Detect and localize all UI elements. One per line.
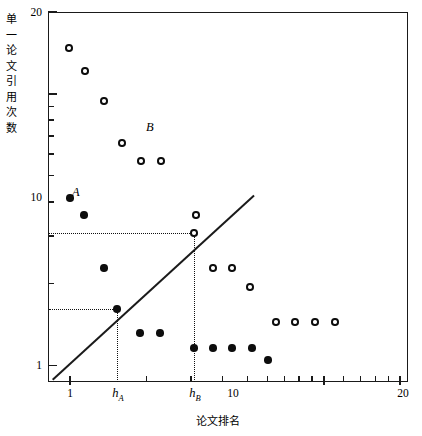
y-axis-title-char: 一 (6, 28, 17, 44)
data-point-series-b-5 (157, 157, 165, 165)
data-point-series-b-3 (118, 139, 126, 147)
data-point-series-a-3 (113, 305, 121, 313)
x-tick-4 (222, 376, 223, 383)
data-point-series-b-11 (291, 318, 299, 326)
x-tick-label-20: 20 (397, 387, 409, 399)
data-point-series-b-8 (228, 264, 236, 272)
data-point-series-b-10 (272, 318, 280, 326)
y-tick-label-20: 20 (31, 6, 43, 18)
data-point-series-a-7 (209, 344, 217, 352)
x-tick-14 (360, 376, 361, 383)
data-point-series-b-13 (331, 318, 339, 326)
y-axis-title-char: 单 (6, 12, 17, 28)
x-tick-7 (284, 376, 285, 383)
data-point-series-b-7 (209, 264, 217, 272)
y-tick-8 (48, 119, 54, 120)
y-tick-label-1: 1 (36, 359, 42, 371)
x-tick-3 (190, 376, 191, 383)
data-point-series-b-2 (100, 97, 108, 105)
x-tick-5 (247, 376, 248, 383)
x-tick-12 (343, 376, 344, 383)
x-tick-2 (146, 376, 147, 383)
x-axis-title: 论文排名 (196, 412, 240, 428)
data-point-series-a-8 (228, 344, 236, 352)
x-tick-8 (298, 376, 299, 383)
annotation-label-a: A (72, 185, 80, 200)
data-point-series-b-12 (311, 318, 319, 326)
annotation-label-b: B (146, 120, 154, 135)
data-point-series-b-4 (137, 157, 145, 165)
y-axis-title-char: 数 (6, 121, 17, 137)
h-a-label-sub: A (119, 393, 124, 403)
plot-frame (48, 12, 408, 382)
h-a-axis-label: hA (112, 386, 123, 403)
y-tick-1 (48, 365, 57, 367)
y-tick-2 (48, 283, 54, 284)
y-axis-title-char: 次 (6, 105, 17, 121)
x-tick-1 (69, 376, 71, 385)
x-tick-10 (323, 376, 325, 385)
data-point-series-b-9 (246, 283, 254, 291)
y-tick-6 (48, 153, 54, 154)
data-point-series-a-6 (190, 344, 198, 352)
data-point-series-b-0 (65, 44, 73, 52)
h-b-axis-label: hB (189, 386, 200, 403)
x-tick-16 (375, 376, 376, 383)
guide-vertical-hb (194, 233, 195, 382)
y-axis-title-char: 文 (6, 59, 17, 75)
chart-figure: 单一论文引用次数 论文排名 2010111020 AB hAhB (0, 0, 422, 436)
y-axis-title-char: 用 (6, 90, 17, 106)
h-b-label-sub: B (196, 393, 201, 403)
y-tick-9 (48, 106, 54, 107)
guide-horizontal-hb (49, 233, 194, 234)
guide-horizontal-ha (49, 309, 117, 310)
data-point-series-a-10 (264, 356, 272, 364)
data-point-series-a-5 (156, 329, 164, 337)
x-tick-20 (399, 376, 401, 385)
data-point-series-a-2 (100, 264, 108, 272)
x-tick-label-10: 10 (227, 387, 239, 399)
y-tick-7 (48, 135, 54, 136)
data-point-series-a-1 (80, 211, 88, 219)
data-point-series-b-14 (192, 211, 200, 219)
y-tick-20 (48, 11, 57, 13)
x-tick-6 (267, 376, 268, 383)
y-axis-title-char: 论 (6, 43, 17, 59)
data-point-series-a-4 (136, 329, 144, 337)
y-tick-3 (48, 235, 54, 236)
x-tick-label-1: 1 (67, 387, 73, 399)
y-tick-label-10: 10 (31, 191, 43, 203)
data-point-series-b-6 (190, 229, 198, 237)
y-tick-4 (48, 201, 54, 202)
x-tick-9 (311, 376, 312, 383)
x-tick-18 (388, 376, 389, 383)
data-point-series-a-9 (248, 344, 256, 352)
y-axis-title-char: 引 (6, 74, 17, 90)
data-point-series-b-1 (81, 67, 89, 75)
y-tick-5 (48, 175, 54, 176)
y-tick-10 (48, 93, 57, 95)
y-axis-title: 单一论文引用次数 (1, 12, 21, 136)
